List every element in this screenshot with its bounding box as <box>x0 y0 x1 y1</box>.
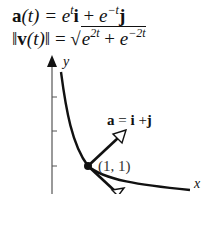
a-symbol: a <box>107 112 115 128</box>
y-axis-label: y <box>63 55 69 69</box>
plus: + <box>135 112 147 128</box>
point-label: (1, 1) <box>98 159 131 174</box>
x-axis-label: x <box>194 177 200 191</box>
vector-label: a = i +j <box>107 113 152 128</box>
point-1-1 <box>84 162 92 170</box>
y-axis-arrow-icon <box>47 55 57 67</box>
j-symbol: j <box>147 112 152 128</box>
equals: = <box>115 112 131 128</box>
